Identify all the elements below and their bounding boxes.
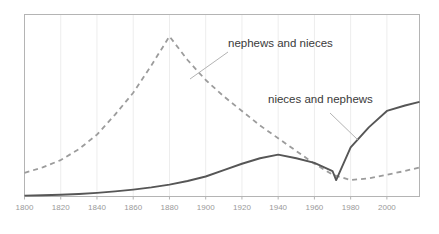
annotation-label-nephews-and-nieces: nephews and nieces [228,37,333,49]
line-chart: nephews and nieces nieces and nephews 18… [0,0,439,234]
chart-background [0,0,439,234]
x-tick-label: 1900 [197,203,215,212]
x-tick-label: 1940 [269,203,287,212]
x-tick-label: 1860 [124,203,142,212]
x-tick-label: 1800 [16,203,34,212]
x-tick-label: 1980 [342,203,360,212]
chart-container: nephews and nieces nieces and nephews 18… [0,0,439,234]
annotation-label-nieces-and-nephews: nieces and nephews [268,93,373,105]
x-tick-label: 1820 [52,203,70,212]
x-tick-label: 1920 [233,203,251,212]
x-tick-label: 1840 [88,203,106,212]
x-tick-label: 1880 [161,203,179,212]
x-tick-label: 1960 [306,203,324,212]
x-tick-label: 2000 [378,203,396,212]
